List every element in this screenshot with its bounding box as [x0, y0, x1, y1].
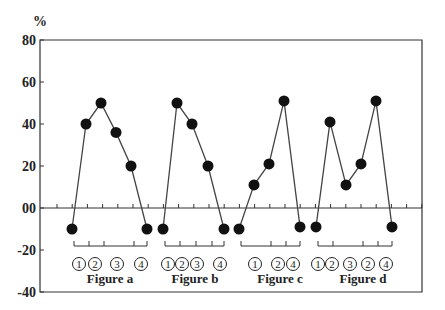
data-point: [96, 98, 107, 109]
circled-number: 3: [194, 258, 200, 270]
figure-label: Figure a: [87, 271, 134, 286]
circled-number: 2: [365, 258, 371, 270]
circled-number: 2: [329, 258, 335, 270]
y-tick-label: 20: [22, 159, 36, 174]
data-series: [67, 95, 398, 234]
circled-number: 4: [290, 258, 296, 270]
group-labels: 1234123412412324Figure aFigure bFigure c…: [73, 258, 393, 287]
y-tick-label: 60: [22, 75, 36, 90]
data-point: [341, 179, 352, 190]
y-tick-label: -20: [17, 243, 36, 258]
data-point: [264, 158, 275, 169]
data-point: [219, 224, 230, 235]
data-point: [249, 179, 260, 190]
y-tick-label: 80: [22, 33, 36, 48]
circled-number: 4: [138, 258, 144, 270]
y-tick-label: 00: [22, 201, 36, 216]
circled-number: 3: [347, 258, 353, 270]
y-tick-label: -40: [17, 285, 36, 300]
circled-number: 1: [76, 258, 82, 270]
circled-number: 4: [383, 258, 389, 270]
circled-number: 1: [165, 258, 171, 270]
circled-number: 2: [179, 258, 185, 270]
data-point: [203, 161, 214, 172]
circled-number: 2: [275, 258, 281, 270]
data-point: [311, 221, 322, 232]
circled-number: 3: [114, 258, 120, 270]
data-point: [172, 98, 183, 109]
figure-label: Figure c: [257, 271, 303, 286]
group-brackets: [74, 241, 392, 246]
data-point: [81, 119, 92, 130]
data-point: [295, 221, 306, 232]
data-point: [356, 158, 367, 169]
y-tick-label: 40: [22, 117, 36, 132]
data-point: [279, 95, 290, 106]
figure-label: Figure b: [171, 271, 218, 286]
figure-label: Figure d: [339, 271, 387, 286]
circled-number: 1: [252, 258, 258, 270]
circled-number: 2: [92, 258, 98, 270]
data-point: [158, 224, 169, 235]
data-point: [126, 161, 137, 172]
data-point: [387, 221, 398, 232]
data-point: [234, 224, 245, 235]
line-chart: % 8060402000-20-40 1234123412412324Figur…: [0, 0, 445, 310]
data-point: [142, 224, 153, 235]
data-point: [111, 127, 122, 138]
data-point: [371, 95, 382, 106]
y-axis-unit: %: [33, 14, 47, 29]
circled-number: 1: [315, 258, 321, 270]
data-point: [325, 116, 336, 127]
data-point: [67, 224, 78, 235]
data-point: [187, 119, 198, 130]
circled-number: 4: [217, 258, 223, 270]
